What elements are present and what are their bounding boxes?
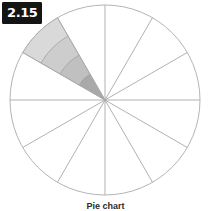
slice-spoke: [23, 100, 105, 148]
pie-chart-svg: [0, 0, 211, 211]
slice-spoke: [105, 53, 187, 101]
figure-container: 2.15 Pie chart: [0, 0, 211, 211]
figure-caption: Pie chart: [0, 201, 211, 211]
highlighted-slice-bands: [23, 18, 105, 100]
slice-spoke: [58, 100, 106, 182]
figure-index-badge: 2.15: [2, 2, 42, 24]
slice-spoke: [105, 100, 187, 148]
slice-spoke: [105, 18, 153, 100]
slice-spoke: [105, 100, 153, 182]
